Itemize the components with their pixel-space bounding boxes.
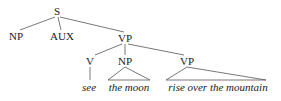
triangle-vp-rise [166,67,266,80]
node-vp-main: VP [118,32,132,44]
edge-s-np [20,17,55,30]
syntax-tree-diagram: S NP AUX VP V NP VP see the moon rise ov… [0,0,281,101]
edge-vp-v [95,44,122,55]
node-np-object: NP [118,55,132,67]
edge-s-aux [58,17,61,30]
triangle-np-the-moon [108,67,150,80]
leaf-see: see [82,81,96,93]
leaf-rise-over-the-mountain: rise over the mountain [168,81,268,93]
node-aux: AUX [50,30,74,42]
leaf-the-moon: the moon [109,81,150,93]
edge-vp-vp [128,44,184,55]
node-s: S [54,5,60,17]
node-np-subject: NP [9,30,23,42]
node-v: V [86,55,94,67]
node-vp-complement: VP [180,55,194,67]
